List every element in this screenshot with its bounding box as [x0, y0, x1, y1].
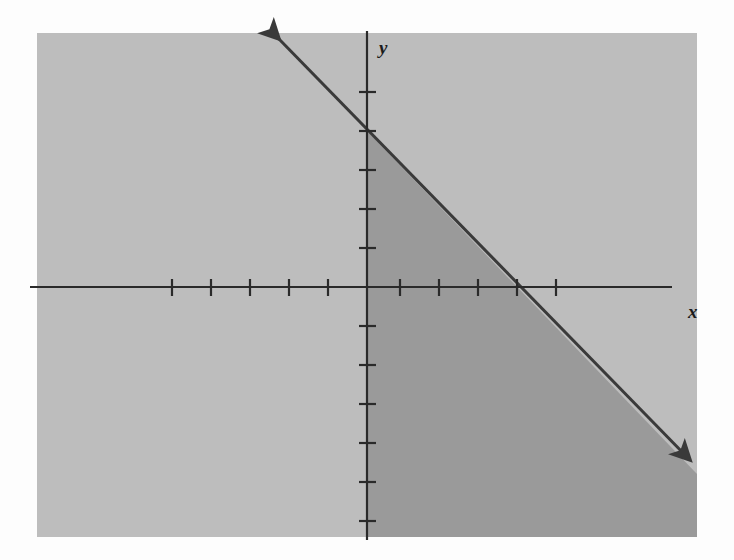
inequality-graph: y x [0, 0, 734, 560]
y-axis-label: y [377, 37, 388, 58]
figure-canvas: y x [0, 0, 734, 560]
x-axis-label: x [687, 301, 698, 322]
